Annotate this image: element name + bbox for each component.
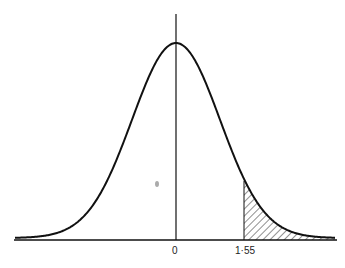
smudge-mark <box>155 181 159 187</box>
mean-label: 0 <box>172 245 178 256</box>
critical-value-label: 1·55 <box>235 245 255 256</box>
bell-curve <box>15 43 335 238</box>
normal-curve-diagram <box>0 0 345 268</box>
